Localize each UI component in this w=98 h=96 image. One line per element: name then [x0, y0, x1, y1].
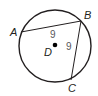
chord-bc [71, 21, 81, 80]
diagram-canvas: A B C D 9 9 [0, 0, 98, 96]
point-label-a: A [9, 26, 17, 38]
length-label-bc: 9 [66, 41, 72, 52]
center-point [53, 43, 58, 48]
length-label-ab: 9 [50, 29, 56, 40]
circle-chord-diagram: A B C D 9 9 [0, 0, 98, 96]
point-label-b: B [84, 9, 91, 21]
point-label-c: C [68, 82, 76, 94]
point-label-d: D [44, 46, 52, 58]
